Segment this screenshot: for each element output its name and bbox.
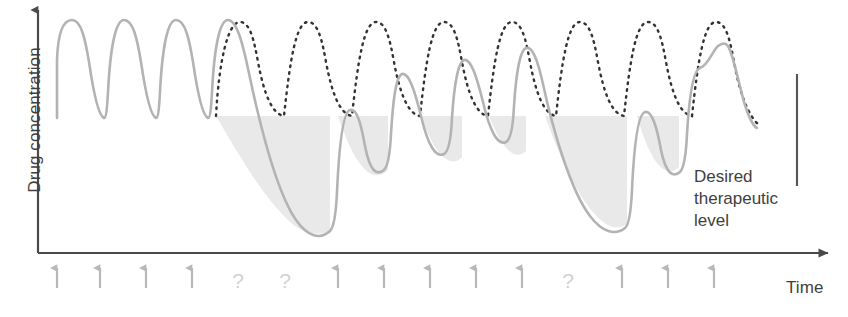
missed-dose-question-mark: ? [562,269,574,292]
missed-dose-question-mark: ? [232,269,244,292]
annotation-line-3: level [694,210,798,232]
y-axis-label: Drug concentration [25,30,45,210]
annotation-line-1: Desired [694,166,798,188]
drug-concentration-chart: ??? Drug concentration Time Desired ther… [0,0,848,317]
annotation-line-2: therapeutic [694,188,798,210]
therapeutic-level-annotation: Desired therapeutic level [694,166,798,232]
ideal-concentration-curve [216,22,760,126]
dose-event-markers: ??? [57,268,714,292]
x-axis-label: Time [786,278,824,298]
missed-dose-question-mark: ? [279,269,291,292]
therapeutic-deficit-shading [216,116,679,234]
chart-plot-area: ??? [0,0,848,317]
